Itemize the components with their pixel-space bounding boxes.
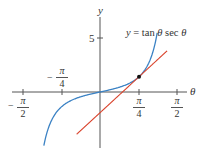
y-tick-label-5: 5	[89, 33, 95, 44]
eq-theta-2: θ	[181, 27, 186, 38]
frac-den: 4	[56, 78, 68, 89]
x-axis-label: θ	[190, 86, 195, 97]
frac-num: π	[171, 96, 183, 108]
frac-num: π	[56, 66, 68, 78]
curve-equation-label: y = tan θ sec θ	[126, 28, 186, 39]
frac-num: π	[17, 96, 29, 108]
x-tick-label-neg-pi-4: π 4	[56, 66, 68, 89]
x-tick-label-neg-pi-2: π 2	[17, 96, 29, 119]
x-tick-neg-pi-4-sign: −	[47, 72, 53, 83]
tangent-line	[77, 51, 167, 134]
frac-den: 2	[17, 108, 29, 119]
x-tick-neg-pi-2-sign: −	[8, 100, 14, 111]
x-tick-label-pi-2: π 2	[171, 96, 183, 119]
x-tick-label-pi-4: π 4	[133, 96, 145, 119]
frac-den: 4	[133, 108, 145, 119]
eq-sec: sec	[162, 27, 181, 38]
chart-canvas	[0, 0, 205, 155]
tangency-point	[137, 75, 141, 79]
frac-num: π	[133, 96, 145, 108]
y-axis-label: y	[98, 5, 103, 16]
eq-equals-tan: = tan	[131, 27, 158, 38]
frac-den: 2	[171, 108, 183, 119]
